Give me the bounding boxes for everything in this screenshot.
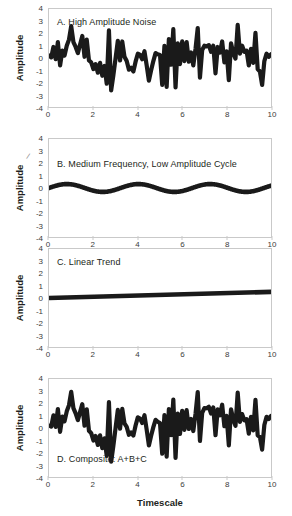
y-tick-label: -3 <box>36 331 43 340</box>
y-tick-label: 3 <box>39 256 43 265</box>
x-axis-label: Timescale <box>137 497 183 508</box>
y-tick-label: 0 <box>39 184 43 193</box>
x-tick-label: 4 <box>135 350 139 359</box>
y-axis-label-c: Amplitude <box>11 248 27 348</box>
y-axis-label-a: Amplitude <box>11 8 27 108</box>
x-tick-label: 8 <box>225 480 229 489</box>
y-tick-label: 1 <box>39 171 43 180</box>
y-tick-label: 0 <box>39 54 43 63</box>
x-tick-label: 0 <box>46 480 50 489</box>
panel-title-d: D. Composite: A+B+C <box>57 454 147 464</box>
y-tick-label: -1 <box>36 306 43 315</box>
x-tick-label: 6 <box>180 110 184 119</box>
y-axis-ticks-d: 43210-1-2-3-4 <box>28 378 45 478</box>
plot-area-b <box>48 138 272 238</box>
x-axis-ticks-a: 0246810 <box>48 110 272 122</box>
y-tick-label: 0 <box>39 294 43 303</box>
y-tick-label: 3 <box>39 16 43 25</box>
x-axis-ticks-c: 0246810 <box>48 350 272 362</box>
panel-b: / Amplitude 43210-1-2-3-4 B. Medium Freq… <box>0 138 292 260</box>
y-tick-label: 1 <box>39 411 43 420</box>
y-tick-label: 2 <box>39 399 43 408</box>
y-tick-label: 2 <box>39 269 43 278</box>
y-axis-label-d: Amplitude <box>11 378 27 478</box>
x-tick-label: 0 <box>46 350 50 359</box>
x-tick-label: 10 <box>268 480 277 489</box>
x-axis-ticks-d: 0246810 <box>48 480 272 492</box>
y-tick-label: 2 <box>39 29 43 38</box>
y-tick-label: 1 <box>39 41 43 50</box>
x-tick-label: 2 <box>91 480 95 489</box>
y-tick-label: -2 <box>36 79 43 88</box>
x-tick-label: 6 <box>180 480 184 489</box>
x-tick-label: 10 <box>268 110 277 119</box>
y-tick-label: -4 <box>36 344 43 353</box>
y-axis-label-text: Amplitude <box>14 165 25 211</box>
y-axis-label-text: Amplitude <box>14 275 25 321</box>
y-axis-ticks-c: 43210-1-2-3-4 <box>28 248 45 348</box>
y-tick-label: -3 <box>36 461 43 470</box>
x-tick-label: 2 <box>91 110 95 119</box>
y-tick-label: -1 <box>36 436 43 445</box>
y-tick-label: -2 <box>36 319 43 328</box>
x-tick-label: 0 <box>46 110 50 119</box>
x-tick-label: 6 <box>180 350 184 359</box>
panel-title-c: C. Linear Trend <box>57 257 121 267</box>
x-tick-label: 4 <box>135 110 139 119</box>
y-tick-label: 4 <box>39 4 43 13</box>
y-tick-label: 0 <box>39 424 43 433</box>
panel-d: Amplitude 43210-1-2-3-4 D. Composite: A+… <box>0 378 292 516</box>
x-tick-label: 10 <box>268 350 277 359</box>
y-axis-ticks-a: 43210-1-2-3-4 <box>28 8 45 108</box>
panel-a: Amplitude 43210-1-2-3-4 A. High Amplitud… <box>0 8 292 130</box>
y-tick-label: -3 <box>36 221 43 230</box>
y-tick-label: 4 <box>39 244 43 253</box>
y-tick-label: -3 <box>36 91 43 100</box>
y-axis-label-text: Amplitude <box>14 405 25 451</box>
y-tick-label: -2 <box>36 449 43 458</box>
y-tick-label: 2 <box>39 159 43 168</box>
y-tick-label: 4 <box>39 374 43 383</box>
y-tick-label: 4 <box>39 134 43 143</box>
x-tick-label: 8 <box>225 110 229 119</box>
panel-title-a: A. High Amplitude Noise <box>57 17 156 27</box>
y-axis-label-text: Amplitude <box>14 35 25 81</box>
x-tick-label: 8 <box>225 350 229 359</box>
y-axis-label-b: Amplitude <box>11 138 27 238</box>
panel-c: Amplitude 43210-1-2-3-4 C. Linear Trend … <box>0 248 292 370</box>
y-tick-label: -2 <box>36 209 43 218</box>
panel-title-b: B. Medium Frequency, Low Amplitude Cycle <box>57 159 237 169</box>
y-tick-label: 1 <box>39 281 43 290</box>
y-tick-label: -4 <box>36 104 43 113</box>
y-tick-label: -4 <box>36 474 43 483</box>
y-tick-label: -1 <box>36 66 43 75</box>
x-tick-label: 4 <box>135 480 139 489</box>
y-tick-label: -1 <box>36 196 43 205</box>
y-tick-label: 3 <box>39 386 43 395</box>
series-line-b <box>49 139 271 237</box>
y-tick-label: -4 <box>36 234 43 243</box>
figure-container: Amplitude 43210-1-2-3-4 A. High Amplitud… <box>0 0 292 516</box>
y-axis-ticks-b: 43210-1-2-3-4 <box>28 138 45 238</box>
x-tick-label: 2 <box>91 350 95 359</box>
y-tick-label: 3 <box>39 146 43 155</box>
